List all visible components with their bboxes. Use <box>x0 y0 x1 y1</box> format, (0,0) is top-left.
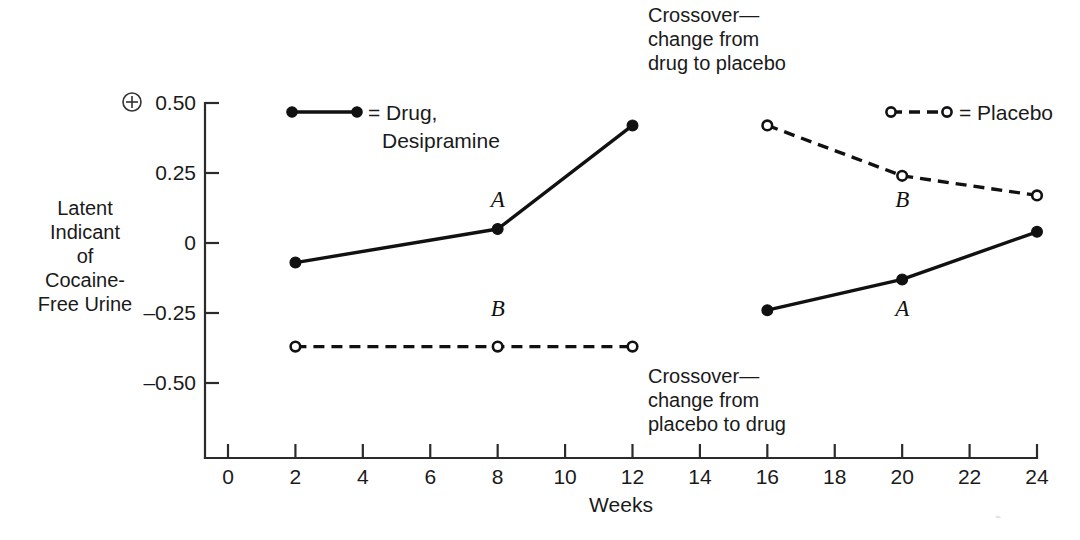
legend-drug-label-line2: Desipramine <box>382 129 500 152</box>
data-point-A-phase1-drug-w12 <box>627 120 638 131</box>
legend-placebo-marker-right <box>942 107 951 116</box>
x-tick-label-22: 22 <box>958 465 981 488</box>
chart-figure: 0.50 0.25 0 –0.25 –0.50 Latent Indicant … <box>0 0 1080 540</box>
x-tick-labels: 024681012141618202224 <box>222 465 1049 488</box>
legend-placebo-marker-left <box>886 107 895 116</box>
data-point-B-phase1-placebo-w12 <box>628 342 638 352</box>
legend-drug-marker-right <box>352 107 362 117</box>
y-tick-label-4: –0.50 <box>143 371 196 394</box>
page-watermark: ⌁ <box>995 511 1001 522</box>
y-tick-label-1: 0.25 <box>155 161 196 184</box>
x-tick-label-6: 6 <box>424 465 436 488</box>
annotation-0-line-0: Crossover— <box>648 4 759 26</box>
legend-placebo-label: = Placebo <box>959 101 1053 124</box>
data-point-A-phase2-drug-w24 <box>1032 226 1043 237</box>
annotation-0-line-2: drug to placebo <box>648 52 786 74</box>
data-point-B-phase2-placebo-w20 <box>897 171 907 181</box>
legend-drug-marker-left <box>287 107 297 117</box>
y-tick-label-3: –0.25 <box>143 301 196 324</box>
y-axis-title-line-1: Indicant <box>50 221 120 243</box>
annotation-1-line-2: placebo to drug <box>648 413 786 435</box>
y-axis-title-line-3: Cocaine- <box>45 269 125 291</box>
data-point-B-phase1-placebo-w2 <box>291 342 301 352</box>
data-point-A-phase2-drug-w20 <box>897 274 908 285</box>
data-point-A-phase1-drug-w2 <box>290 257 301 268</box>
y-axis-title: Latent Indicant of Cocaine- Free Urine <box>38 197 132 315</box>
legend-drug: = Drug, Desipramine <box>287 101 500 152</box>
data-point-A-phase1-drug-w8 <box>492 224 503 235</box>
x-tick-label-12: 12 <box>621 465 644 488</box>
legend-placebo: = Placebo <box>886 101 1053 124</box>
annotation-1-line-0: Crossover— <box>648 365 759 387</box>
series-label-A-phase2-drug: A <box>893 296 910 321</box>
y-axis-title-line-2: of <box>77 245 94 267</box>
data-point-B-phase1-placebo-w8 <box>493 342 503 352</box>
series-line-B-phase2-placebo <box>767 125 1037 195</box>
data-point-A-phase2-drug-w16 <box>762 305 773 316</box>
y-axis-title-line-0: Latent <box>57 197 113 219</box>
series-letter-labels: ABBA <box>489 187 911 321</box>
annotation-crossover-drug-to-placebo: Crossover— change from drug to placebo <box>648 4 786 74</box>
x-tick-label-14: 14 <box>688 465 712 488</box>
x-tick-marks <box>228 444 1037 458</box>
series-label-A-phase1-drug: A <box>489 187 506 212</box>
annotation-0-line-1: change from <box>648 28 759 50</box>
x-tick-label-16: 16 <box>756 465 779 488</box>
circled-plus-icon <box>123 93 141 111</box>
series-label-B-phase2-placebo: B <box>895 187 909 212</box>
x-tick-label-8: 8 <box>492 465 504 488</box>
data-point-B-phase2-placebo-w16 <box>763 121 773 131</box>
y-tick-label-2: 0 <box>184 231 196 254</box>
x-tick-label-0: 0 <box>222 465 234 488</box>
y-axis: 0.50 0.25 0 –0.25 –0.50 <box>143 91 219 458</box>
x-tick-label-10: 10 <box>553 465 576 488</box>
y-tick-label-0: 0.50 <box>155 91 196 114</box>
x-axis: 024681012141618202224 Weeks <box>205 444 1049 516</box>
x-axis-title: Weeks <box>589 493 653 516</box>
x-tick-label-2: 2 <box>290 465 302 488</box>
annotation-1-line-1: change from <box>648 389 759 411</box>
legend-drug-label: = Drug, <box>368 101 437 124</box>
x-tick-label-4: 4 <box>357 465 369 488</box>
series-layer <box>290 120 1042 351</box>
y-axis-title-line-4: Free Urine <box>38 293 132 315</box>
x-tick-label-24: 24 <box>1025 465 1049 488</box>
x-tick-label-18: 18 <box>823 465 846 488</box>
x-tick-label-20: 20 <box>890 465 913 488</box>
series-label-B-phase1-placebo: B <box>491 296 505 321</box>
data-point-B-phase2-placebo-w24 <box>1032 191 1042 201</box>
annotation-crossover-placebo-to-drug: Crossover— change from placebo to drug <box>648 365 786 435</box>
series-B-phase1-placebo <box>291 342 638 352</box>
